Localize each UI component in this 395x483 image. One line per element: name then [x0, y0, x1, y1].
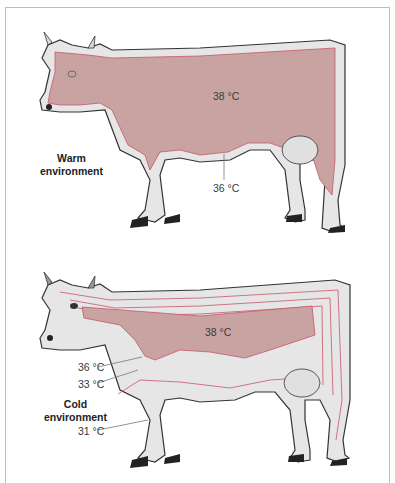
- nose: [47, 335, 53, 341]
- warm-label-line1: Warm: [40, 152, 103, 165]
- cold-label-line2: environment: [44, 411, 107, 424]
- warm-isotherm-36-label: 36 °C: [213, 182, 239, 194]
- cold-environment-label: Cold environment: [44, 398, 107, 424]
- eye: [70, 303, 78, 309]
- cold-isotherm-36-label: 36 °C: [78, 361, 104, 373]
- cold-core-temp-label: 38 °C: [205, 326, 231, 338]
- cold-isotherm-31-label: 31 °C: [78, 425, 104, 437]
- warm-core-temp-label: 38 °C: [213, 90, 239, 102]
- hoof: [288, 454, 304, 462]
- udder: [284, 369, 320, 397]
- horn: [88, 276, 95, 288]
- hoof: [164, 454, 180, 464]
- cold-isotherm-33-label: 33 °C: [78, 378, 104, 390]
- warm-environment-label: Warm environment: [40, 152, 103, 178]
- horn: [44, 272, 52, 285]
- warm-label-line2: environment: [40, 165, 103, 178]
- cold-label-line1: Cold: [44, 398, 107, 411]
